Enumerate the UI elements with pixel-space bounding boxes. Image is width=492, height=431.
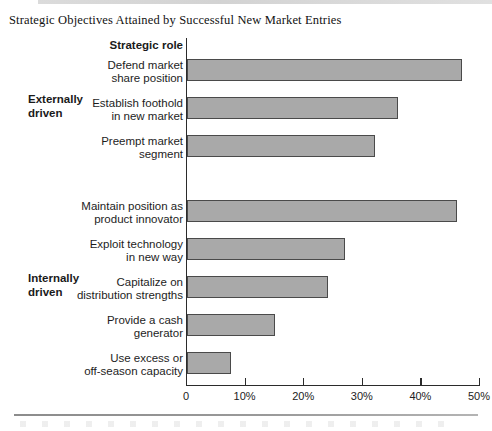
bar [187,97,398,119]
bar [187,276,328,298]
x-axis-tick-label: 40% [409,390,431,402]
bar-category-label: Defend market share position [3,59,183,84]
x-axis-tick [245,378,246,386]
x-axis-tick [362,378,363,386]
bar-category-label: Preempt market segment [3,135,183,160]
x-axis-tick-label: 0 [183,390,189,402]
x-axis-tick [420,378,421,386]
x-axis-tick [303,378,304,386]
x-axis-tick [479,378,480,386]
footer-rule [14,414,478,416]
bar-category-label: Maintain position as product innovator [3,200,183,225]
bar-category-label: Exploit technology in new way [3,238,183,263]
bar-category-label: Use excess or off-season capacity [3,352,183,377]
bar [187,314,275,336]
bar [187,352,231,374]
x-axis-tick [186,378,187,386]
bar-category-label: Establish foothold in new market [3,97,183,122]
scan-artifact-bottom [20,421,450,427]
bar-category-label: Capitalize on distribution strengths [3,276,183,301]
bar [187,135,375,157]
bar [187,238,345,260]
x-axis-tick-label: 50% [468,390,490,402]
x-axis-tick-label: 20% [292,390,314,402]
bar [187,200,457,222]
category-axis-header: Strategic role [110,39,184,51]
x-axis-tick-label: 10% [234,390,256,402]
bar-category-label: Provide a cash generator [3,314,183,339]
x-axis-line [186,385,480,386]
x-axis-tick-label: 30% [351,390,373,402]
bar [187,59,462,81]
bar-chart: Strategic role 010%20%30%40%50% External… [0,0,492,431]
